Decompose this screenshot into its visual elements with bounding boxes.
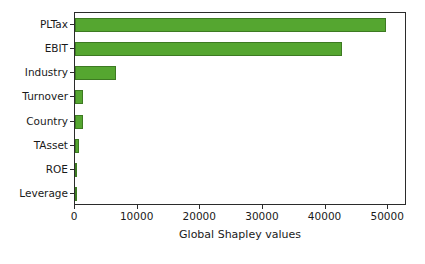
x-tick (137, 205, 138, 209)
x-tick-label-10000: 10000 (120, 210, 153, 222)
x-tick (325, 205, 326, 209)
y-tick-label-ebit: EBIT (45, 42, 68, 54)
x-tick (387, 205, 388, 209)
y-tick (70, 121, 74, 122)
bar-rect (75, 90, 83, 104)
bar-rect (75, 163, 77, 177)
x-tick (74, 205, 75, 209)
x-tick-label-40000: 40000 (308, 210, 341, 222)
x-tick-label-50000: 50000 (371, 210, 404, 222)
y-tick (70, 48, 74, 49)
y-tick (70, 169, 74, 170)
y-tick-label-roe: ROE (46, 163, 68, 175)
bar-leverage (75, 187, 77, 201)
x-tick-label-30000: 30000 (245, 210, 278, 222)
bar-tasset (75, 139, 79, 153)
x-tick-label-0: 0 (71, 210, 78, 222)
bar-roe (75, 163, 77, 177)
y-tick-label-pltax: PLTax (40, 18, 68, 30)
plot-area (74, 12, 406, 205)
bar-rect (75, 139, 79, 153)
x-tick (199, 205, 200, 209)
y-tick-label-country: Country (26, 115, 68, 127)
y-tick (70, 96, 74, 97)
x-tick (262, 205, 263, 209)
bar-rect (75, 18, 386, 32)
bar-country (75, 115, 83, 129)
x-tick-label-20000: 20000 (183, 210, 216, 222)
y-tick (70, 193, 74, 194)
y-tick-label-industry: Industry (25, 66, 68, 78)
y-tick-label-tasset: TAsset (34, 139, 68, 151)
bar-rect (75, 66, 116, 80)
bar-rect (75, 115, 83, 129)
bar-ebit (75, 42, 342, 56)
bar-industry (75, 66, 116, 80)
y-tick (70, 24, 74, 25)
shapley-bar-chart: PLTaxEBITIndustryTurnoverCountryTAssetRO… (0, 0, 425, 264)
bars-layer (75, 13, 405, 204)
y-tick-label-turnover: Turnover (22, 90, 68, 102)
y-tick (70, 145, 74, 146)
bar-pltax (75, 18, 386, 32)
bar-rect (75, 187, 77, 201)
x-axis-title: Global Shapley values (74, 228, 406, 241)
bar-rect (75, 42, 342, 56)
y-tick (70, 72, 74, 73)
y-tick-label-leverage: Leverage (19, 187, 68, 199)
bar-turnover (75, 90, 83, 104)
